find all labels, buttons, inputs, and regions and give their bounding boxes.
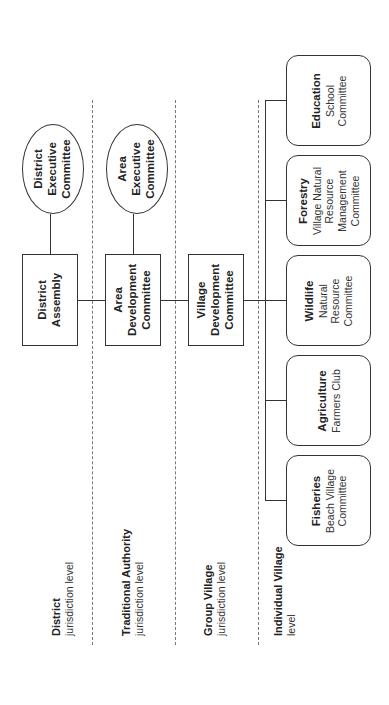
ellipse-line: Executive: [46, 139, 60, 198]
box-line: Committee: [140, 264, 154, 336]
level-label-district: District jurisdiction level: [50, 562, 76, 636]
village-development-committee-box: Village Development Committee: [188, 254, 244, 346]
connector-area-exec: [133, 214, 134, 254]
area-development-committee-box: Area Development Committee: [105, 254, 161, 346]
level-divider-1: [92, 100, 93, 645]
sector-forestry-box: Forestry Village Natural Resource Manage…: [286, 155, 371, 246]
sector-agriculture-box: Agriculture Farmers Club: [286, 355, 371, 446]
connector-district-exec: [50, 214, 51, 254]
box-line: Village: [195, 264, 209, 336]
ellipse-line: Executive: [130, 139, 144, 198]
committee-line: Village Natural: [310, 166, 323, 234]
area-executive-committee: Area Executive Committee: [106, 124, 168, 214]
district-assembly-box: District Assembly: [22, 254, 78, 346]
level-title: Group Village: [202, 562, 215, 636]
level-label-group-village: Group Village jurisdiction level: [202, 562, 228, 636]
committee-line: Committee: [348, 166, 361, 234]
connector-wildlife: [265, 300, 286, 301]
box-line: Development: [126, 264, 140, 336]
sector-title: Agriculture: [315, 369, 329, 433]
level-title: District: [50, 562, 63, 636]
ellipse-line: District: [32, 139, 46, 198]
box-line: Area: [112, 264, 126, 336]
level-subtitle: jurisdiction level: [133, 529, 146, 636]
sector-title: Forestry: [296, 166, 310, 234]
ellipse-line: Committee: [60, 139, 74, 198]
box-line: Committee: [223, 264, 237, 336]
box-line: Assembly: [50, 273, 64, 327]
level-divider-3: [258, 100, 259, 645]
sector-wildlife-box: Wildlife Natural Resource Committee: [286, 255, 371, 346]
level-subtitle: jurisdiction level: [215, 562, 228, 636]
committee-line: School: [323, 73, 336, 129]
level-divider-2: [175, 100, 176, 645]
committee-line: Resource: [329, 275, 342, 326]
connector-forestry: [265, 200, 286, 201]
sector-title: Wildlife: [303, 275, 317, 326]
connector-fisheries: [265, 500, 286, 501]
level-subtitle: jurisdiction level: [63, 562, 76, 636]
committee-line: Committee: [335, 73, 348, 129]
sector-title: Education: [309, 73, 323, 129]
box-line: District: [36, 273, 50, 327]
level-subtitle: level: [285, 546, 298, 636]
ellipse-line: Committee: [144, 139, 158, 198]
connector-education: [265, 100, 286, 101]
level-label-individual-village: Individual Village level: [272, 546, 298, 636]
box-line: Development: [209, 264, 223, 336]
committee-line: Committee: [342, 275, 355, 326]
level-title: Traditional Authority: [120, 529, 133, 636]
sector-title: Fisheries: [309, 468, 323, 532]
committee-line: Natural: [317, 275, 330, 326]
ellipse-line: Area: [116, 139, 130, 198]
committee-line: Management: [335, 166, 348, 234]
committee-line: Farmers Club: [329, 369, 342, 433]
district-executive-committee: District Executive Committee: [22, 124, 84, 214]
diagram-canvas: District Executive Committee Area Execut…: [0, 0, 389, 705]
committee-line: Resource: [323, 166, 336, 234]
connector-agriculture: [265, 400, 286, 401]
sector-education-box: Education School Committee: [286, 55, 371, 146]
sector-fisheries-box: Fisheries Beach Village Committee: [286, 455, 371, 546]
level-label-traditional-authority: Traditional Authority jurisdiction level: [120, 529, 146, 636]
level-title: Individual Village: [272, 546, 285, 636]
committee-line: Beach Village: [323, 468, 336, 532]
committee-line: Committee: [335, 468, 348, 532]
